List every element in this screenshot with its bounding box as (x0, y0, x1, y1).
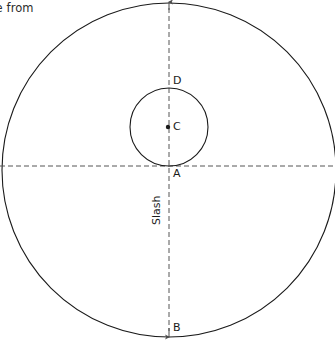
figure-canvas: re from D C A B Slash (0, 0, 335, 341)
point-label-a: A (173, 167, 181, 180)
point-label-b: B (173, 321, 181, 334)
point-label-d: D (173, 74, 181, 87)
slash-axis-label: Slash (150, 175, 164, 225)
center-point-c-dot (166, 125, 170, 129)
point-label-c: C (173, 120, 181, 133)
geometry-diagram (0, 0, 335, 341)
